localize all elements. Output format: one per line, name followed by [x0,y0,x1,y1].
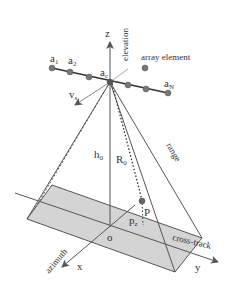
y-axis-line [15,193,218,262]
z-axis-label: z [105,27,110,39]
P-label: P [144,206,150,218]
target-point-P [139,198,145,204]
velocity-arrow [75,82,110,105]
elevation-guide-line [110,69,128,82]
array-element-a5 [125,82,131,88]
range-label: range [164,141,183,163]
ac-label: ac [100,66,108,80]
array-element-legend-label: array element [141,52,191,62]
origin-label: o [107,231,113,243]
a2-label: a2 [68,54,77,68]
range-line-R0 [112,84,142,200]
y-axis-label: y [195,261,201,273]
elevation-label: elevation [120,28,130,61]
h0-label: h0 [94,148,104,162]
azimuth-label: azimuth [43,246,70,275]
array-element-a2 [67,69,73,75]
beam-edge-left-dotted [34,82,110,210]
vs-label: vs [69,88,78,102]
aN-label: aN [164,77,174,91]
a1-label: a1 [50,52,59,66]
sar-array-geometry-diagram: z elevation array element a1 a2 ac aN vs… [0,0,236,286]
array-element-a6 [143,86,149,92]
R0-label: R0 [116,153,127,167]
array-element-a3 [86,74,92,80]
legend-array-element-dot [142,65,148,71]
x-axis-label: x [77,260,83,272]
